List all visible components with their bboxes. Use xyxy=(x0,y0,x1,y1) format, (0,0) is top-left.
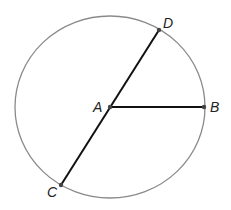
label-a: A xyxy=(92,99,102,115)
label-d: D xyxy=(163,15,173,31)
circle-diagram: A B C D xyxy=(0,0,231,210)
label-c: C xyxy=(47,184,58,200)
label-b: B xyxy=(210,99,219,115)
point-d xyxy=(157,28,161,32)
point-b xyxy=(202,105,206,109)
point-a xyxy=(108,105,112,109)
point-c xyxy=(59,183,63,187)
